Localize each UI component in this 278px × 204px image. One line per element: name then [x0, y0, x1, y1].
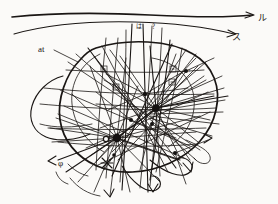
boundary-curve-upper — [12, 13, 252, 17]
vertex-primary-2 — [152, 104, 160, 112]
vertex-6 — [150, 122, 154, 126]
envelope-inner-arc-left — [72, 54, 104, 152]
v1-ray-8 — [58, 114, 117, 138]
vertex-9 — [112, 153, 116, 157]
v4-ray-1 — [145, 70, 186, 94]
vertex-open-3 — [103, 136, 108, 141]
annotation-ha: は — [136, 23, 142, 30]
tail-track-1 — [70, 178, 100, 196]
vertex-4 — [143, 92, 147, 96]
arrowhead-1 — [104, 189, 114, 197]
annotation-question: ？ — [152, 23, 158, 29]
particle-track-sketch: ル ス は ？ at φ † / — [0, 0, 278, 204]
top-boundary-curves — [12, 12, 254, 37]
diagonal-tracks — [56, 44, 210, 176]
annotation-phi: φ — [58, 158, 63, 168]
boundary-curve-lower — [14, 22, 234, 34]
arrowhead-4 — [48, 156, 56, 165]
leader-at — [54, 50, 78, 62]
annotation-su: ス — [232, 32, 241, 42]
vertex-5 — [129, 118, 133, 122]
vertex-7 — [173, 151, 177, 155]
v1-ray-10 — [90, 66, 117, 138]
leader-phi-tail — [56, 172, 68, 184]
annotation-ru: ル — [258, 13, 267, 23]
sketch-page: ル ス は ？ at φ † / — [0, 0, 278, 204]
annotation-at: at — [38, 44, 45, 54]
vertex-primary-1 — [113, 134, 121, 142]
